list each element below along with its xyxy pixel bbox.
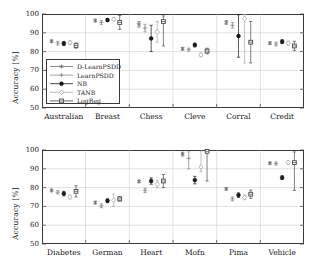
legend-label-d-learnpsdd: D-LearnPSDD: [77, 63, 121, 70]
figure-accuracy-comparison: Accuracy [%] 1009080706050AustralianBrea…: [0, 0, 312, 272]
y-axis-tick: 60: [21, 85, 39, 93]
x-axis-tick-german: German: [86, 248, 130, 257]
y-axis-tick: 60: [21, 221, 39, 229]
x-axis-tick-corral: Corral: [217, 112, 261, 121]
series-logreg: [74, 149, 296, 201]
legend-label-logreg: LogReg: [77, 97, 101, 104]
x-axis-tick-heart: Heart: [129, 248, 173, 257]
x-axis-tick-cleve: Cleve: [173, 112, 217, 121]
series-tanb: [68, 151, 291, 206]
x-axis-tick-diabetes: Diabetes: [42, 248, 86, 257]
x-axis-tick-credit: Credit: [260, 112, 304, 121]
chart-panel-bottom: Accuracy [%] 1009080706050DiabetesGerman…: [0, 136, 312, 272]
legend-label-nb: NB: [77, 80, 87, 87]
y-axis-tick: 70: [21, 202, 39, 210]
x-axis-tick-mofn: Mofn: [173, 248, 217, 257]
x-axis-tick-australian: Australian: [42, 112, 86, 121]
y-axis-tick: 80: [21, 184, 39, 192]
y-axis-tick: 80: [21, 48, 39, 56]
y-axis-tick: 90: [21, 29, 39, 37]
y-axis-tick: 50: [21, 104, 39, 112]
y-axis-tick: 70: [21, 66, 39, 74]
y-axis-tick: 100: [21, 10, 39, 18]
x-axis-tick-pima: Pima: [217, 248, 261, 257]
y-axis-tick: 50: [21, 240, 39, 248]
y-axis-tick: 90: [21, 165, 39, 173]
legend: D-LearnPSDD LearnPSDD NB TANB LogReg: [46, 59, 120, 104]
legend-label-learnpsdd: LearnPSDD: [77, 72, 114, 79]
x-axis-tick-vehicle: Vehicle: [260, 248, 304, 257]
x-axis-tick-breast: Breast: [86, 112, 130, 121]
legend-label-tanb: TANB: [77, 89, 95, 96]
y-axis-tick: 100: [21, 146, 39, 154]
series-logreg: [74, 16, 296, 63]
x-axis-tick-chess: Chess: [129, 112, 173, 121]
